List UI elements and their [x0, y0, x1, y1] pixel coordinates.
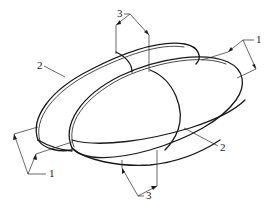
callout-2-right: 2: [220, 142, 226, 153]
callout-2-left: 2: [37, 60, 43, 71]
capsule-assembly-drawing: [0, 0, 272, 207]
callout-1-right: 1: [256, 34, 262, 45]
callout-1-left: 1: [49, 168, 55, 179]
callout-3-bottom: 3: [146, 190, 152, 201]
callout-3-top: 3: [117, 8, 123, 19]
front-capsule: [69, 57, 245, 165]
